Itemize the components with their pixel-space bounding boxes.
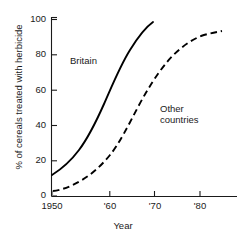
x-tick-label-1950: 1950 <box>35 201 69 211</box>
herbicide-usage-chart: 100 80 60 40 20 0 1950 '60 '70 '80 % of … <box>0 0 246 241</box>
x-axis-ticks <box>52 191 200 197</box>
series-annotation-other-countries: Other countries <box>160 103 199 125</box>
y-axis-title: % of cereals treated with herbicide <box>14 22 24 172</box>
series-annotation-other-line2: countries <box>160 114 199 125</box>
series-annotation-britain: Britain <box>70 55 97 66</box>
x-tick-label-1960: '60 <box>95 201 125 211</box>
x-tick-label-1970: '70 <box>140 201 170 211</box>
x-axis-title: Year <box>0 220 246 231</box>
x-tick-label-1980: '80 <box>185 201 215 211</box>
y-tick-label-0: 0 <box>20 190 46 200</box>
series-annotation-other-line1: Other <box>160 103 199 114</box>
y-axis-ticks <box>52 20 58 197</box>
series-line-britain <box>52 22 153 175</box>
